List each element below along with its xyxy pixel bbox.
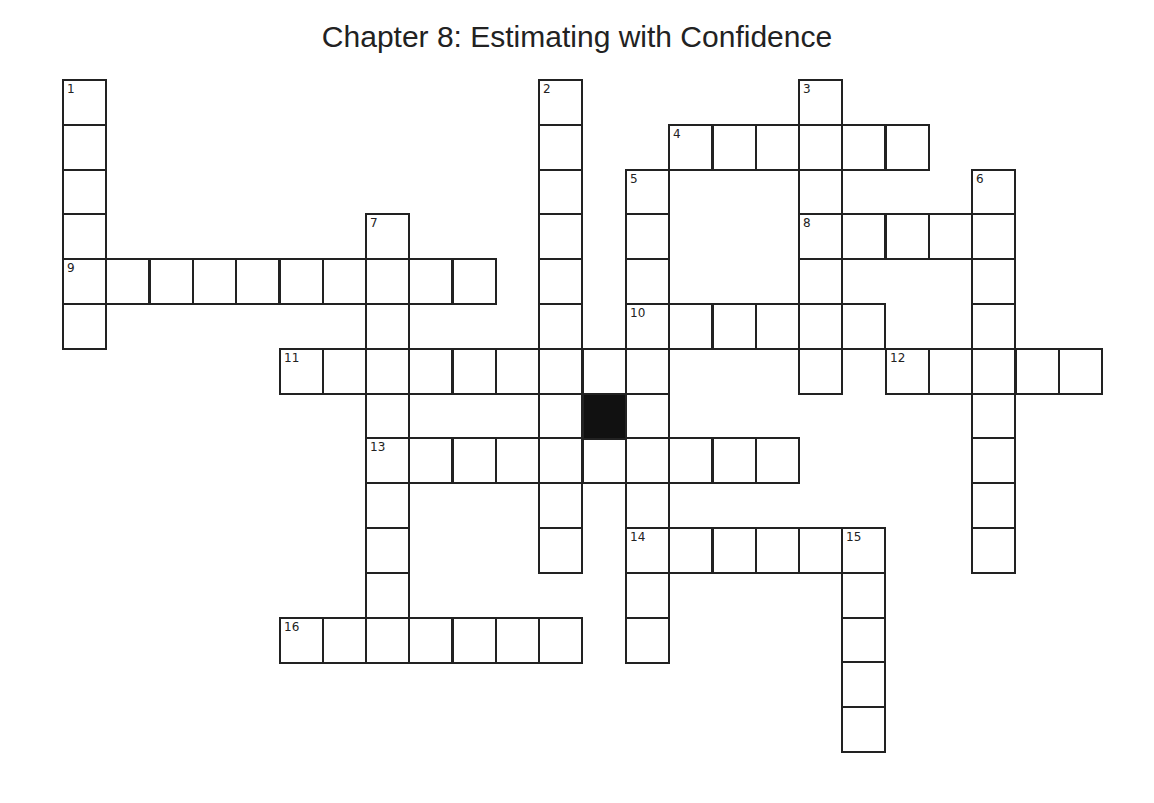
crossword-cell[interactable]: [408, 258, 453, 305]
crossword-cell[interactable]: [582, 437, 627, 484]
crossword-cell[interactable]: [365, 393, 410, 440]
crossword-cell[interactable]: 6: [971, 169, 1016, 216]
crossword-cell[interactable]: [841, 661, 886, 708]
crossword-cell[interactable]: 2: [538, 79, 583, 126]
crossword-cell[interactable]: [755, 124, 800, 171]
crossword-cell[interactable]: [971, 527, 1016, 574]
crossword-cell[interactable]: [841, 617, 886, 664]
crossword-cell[interactable]: [712, 437, 757, 484]
crossword-cell[interactable]: 16: [279, 617, 324, 664]
crossword-cell[interactable]: [408, 437, 453, 484]
crossword-cell[interactable]: [538, 482, 583, 529]
crossword-cell[interactable]: [625, 213, 670, 260]
crossword-cell[interactable]: [755, 303, 800, 350]
crossword-cell[interactable]: [971, 213, 1016, 260]
crossword-cell[interactable]: [625, 617, 670, 664]
crossword-cell[interactable]: [62, 213, 107, 260]
crossword-cell[interactable]: [841, 706, 886, 753]
crossword-cell[interactable]: [452, 437, 497, 484]
crossword-cell[interactable]: 9: [62, 258, 107, 305]
crossword-cell[interactable]: [928, 213, 973, 260]
crossword-cell[interactable]: [538, 258, 583, 305]
crossword-cell[interactable]: 10: [625, 303, 670, 350]
crossword-cell[interactable]: [62, 124, 107, 171]
crossword-cell[interactable]: [841, 303, 886, 350]
crossword-cell[interactable]: [538, 437, 583, 484]
crossword-cell[interactable]: [712, 124, 757, 171]
crossword-cell[interactable]: [62, 169, 107, 216]
crossword-cell[interactable]: [365, 572, 410, 619]
crossword-cell[interactable]: [235, 258, 280, 305]
crossword-cell[interactable]: [668, 437, 713, 484]
crossword-cell[interactable]: [192, 258, 237, 305]
crossword-cell[interactable]: [495, 437, 540, 484]
crossword-cell[interactable]: [452, 617, 497, 664]
crossword-cell[interactable]: [625, 572, 670, 619]
crossword-cell[interactable]: 5: [625, 169, 670, 216]
crossword-cell[interactable]: [625, 437, 670, 484]
crossword-cell[interactable]: [408, 348, 453, 395]
crossword-cell[interactable]: [625, 348, 670, 395]
crossword-cell[interactable]: [538, 124, 583, 171]
crossword-cell[interactable]: [538, 303, 583, 350]
crossword-cell[interactable]: [538, 169, 583, 216]
crossword-cell[interactable]: [841, 124, 886, 171]
crossword-cell[interactable]: [365, 348, 410, 395]
crossword-cell[interactable]: [452, 348, 497, 395]
crossword-cell[interactable]: [538, 617, 583, 664]
crossword-cell[interactable]: [365, 527, 410, 574]
crossword-cell[interactable]: [495, 617, 540, 664]
crossword-cell[interactable]: [971, 482, 1016, 529]
crossword-cell[interactable]: [582, 348, 627, 395]
crossword-cell[interactable]: [841, 213, 886, 260]
crossword-cell[interactable]: [625, 482, 670, 529]
crossword-cell[interactable]: [495, 348, 540, 395]
crossword-cell[interactable]: [538, 348, 583, 395]
crossword-cell[interactable]: [322, 258, 367, 305]
crossword-cell[interactable]: 13: [365, 437, 410, 484]
crossword-cell[interactable]: [105, 258, 150, 305]
crossword-cell[interactable]: [712, 527, 757, 574]
crossword-cell[interactable]: [668, 303, 713, 350]
crossword-cell[interactable]: [365, 482, 410, 529]
crossword-cell[interactable]: 15: [841, 527, 886, 574]
crossword-cell[interactable]: [971, 258, 1016, 305]
crossword-cell[interactable]: [841, 572, 886, 619]
crossword-cell[interactable]: [971, 348, 1016, 395]
crossword-cell[interactable]: [798, 124, 843, 171]
crossword-cell[interactable]: [365, 617, 410, 664]
crossword-cell[interactable]: 11: [279, 348, 324, 395]
crossword-cell[interactable]: [62, 303, 107, 350]
crossword-cell[interactable]: 7: [365, 213, 410, 260]
crossword-cell[interactable]: [755, 437, 800, 484]
crossword-cell[interactable]: [625, 393, 670, 440]
crossword-cell[interactable]: [452, 258, 497, 305]
crossword-cell[interactable]: [885, 124, 930, 171]
crossword-cell[interactable]: 8: [798, 213, 843, 260]
crossword-cell[interactable]: [971, 437, 1016, 484]
crossword-cell[interactable]: [971, 303, 1016, 350]
crossword-cell[interactable]: [798, 169, 843, 216]
crossword-cell[interactable]: [149, 258, 194, 305]
crossword-cell[interactable]: [279, 258, 324, 305]
crossword-cell[interactable]: [1015, 348, 1060, 395]
crossword-cell[interactable]: [755, 527, 800, 574]
crossword-cell[interactable]: [538, 527, 583, 574]
crossword-cell[interactable]: [365, 258, 410, 305]
crossword-cell[interactable]: [408, 617, 453, 664]
crossword-cell[interactable]: [322, 617, 367, 664]
crossword-cell[interactable]: 4: [668, 124, 713, 171]
crossword-cell[interactable]: [798, 527, 843, 574]
crossword-cell[interactable]: [322, 348, 367, 395]
crossword-cell[interactable]: [625, 258, 670, 305]
crossword-cell[interactable]: [538, 213, 583, 260]
crossword-cell[interactable]: 14: [625, 527, 670, 574]
crossword-cell[interactable]: 3: [798, 79, 843, 126]
crossword-cell[interactable]: [1058, 348, 1103, 395]
crossword-cell[interactable]: [928, 348, 973, 395]
crossword-cell[interactable]: [798, 303, 843, 350]
crossword-cell[interactable]: [971, 393, 1016, 440]
crossword-cell[interactable]: 12: [885, 348, 930, 395]
crossword-cell[interactable]: [885, 213, 930, 260]
crossword-cell[interactable]: [538, 393, 583, 440]
